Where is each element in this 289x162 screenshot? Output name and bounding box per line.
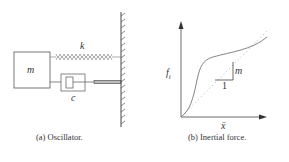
slope-rise-label: m — [235, 66, 242, 76]
y-axis-label-subscript: i — [169, 73, 171, 81]
linear-reference-line — [181, 30, 268, 117]
damper — [50, 74, 121, 91]
spring-label: k — [80, 41, 84, 51]
inertial-force-curve — [181, 37, 267, 117]
mass-label: m — [27, 65, 34, 75]
slope-run-label: 1 — [222, 81, 227, 91]
inertial-force-caption: (b) Inertial force. — [188, 133, 246, 142]
damper-label: c — [71, 93, 75, 103]
y-axis-label: fi — [166, 68, 171, 82]
y-axis — [179, 21, 184, 117]
spring — [50, 54, 121, 60]
oscillator-caption: (a) Oscillator. — [36, 133, 83, 142]
wall-hatching — [121, 13, 125, 124]
x-axis-label: ẍ — [221, 121, 225, 131]
x-axis — [181, 115, 267, 120]
slope-triangle — [215, 62, 233, 80]
